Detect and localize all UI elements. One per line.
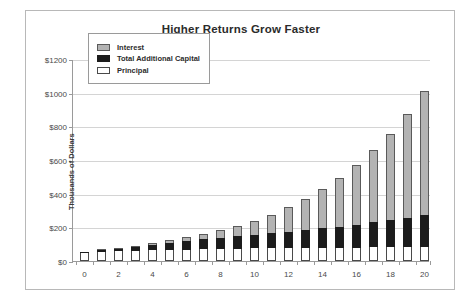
x-tick-label: 20 (420, 270, 429, 279)
x-tick-mark (263, 261, 264, 265)
bar (250, 221, 259, 261)
bar-segment-principal (403, 247, 412, 261)
bar-segment-interest (301, 199, 310, 231)
bar-segment-principal (250, 248, 259, 261)
bar-segment-total-additional-capital (216, 238, 225, 249)
bar-segment-principal (80, 253, 89, 261)
bar-segment-interest (250, 221, 259, 234)
y-tick-mark (69, 60, 73, 61)
bar-segment-total-additional-capital (250, 235, 259, 249)
bar (216, 230, 225, 261)
bar-segment-principal (131, 251, 140, 261)
gridline (73, 94, 430, 95)
legend-item-principal: Principal (97, 66, 202, 75)
legend-swatch (97, 67, 110, 74)
x-tick-label: 16 (352, 270, 361, 279)
legend-label: Interest (117, 43, 144, 52)
bar-segment-principal (114, 251, 123, 261)
bar (182, 237, 191, 261)
x-tick-label: 18 (386, 270, 395, 279)
bar-segment-total-additional-capital (199, 239, 208, 249)
bar-segment-principal (216, 249, 225, 261)
x-tick-label: 0 (82, 270, 86, 279)
y-tick-label: $800 (25, 123, 67, 132)
bar-segment-principal (182, 250, 191, 261)
legend-swatch (97, 44, 110, 51)
bar (352, 165, 361, 261)
bar-segment-total-additional-capital (352, 225, 361, 248)
y-tick-label: $600 (25, 157, 67, 166)
bar-segment-principal (97, 252, 106, 261)
x-tick-label: 2 (116, 270, 120, 279)
bar-segment-interest (403, 114, 412, 218)
x-tick-mark (365, 261, 366, 265)
bar-segment-total-additional-capital (233, 236, 242, 249)
bar (114, 248, 123, 261)
y-tick-label: $0 (25, 258, 67, 267)
x-tick-mark (246, 261, 247, 265)
bar-segment-principal (233, 249, 242, 261)
x-tick-label: 10 (250, 270, 259, 279)
y-tick-mark (69, 228, 73, 229)
bar-segment-principal (284, 248, 293, 261)
bar (369, 150, 378, 261)
y-tick-label: $400 (25, 190, 67, 199)
x-tick-mark (178, 261, 179, 265)
bar (199, 234, 208, 261)
y-tick-mark (69, 127, 73, 128)
bar-segment-total-additional-capital (301, 230, 310, 248)
bar-segment-total-additional-capital (369, 222, 378, 247)
bar-segment-principal (386, 247, 395, 261)
x-tick-label: 6 (184, 270, 188, 279)
chart-legend: InterestTotal Additional CapitalPrincipa… (88, 33, 210, 84)
x-tick-label: 14 (318, 270, 327, 279)
bar-segment-principal (420, 247, 429, 261)
bar (233, 226, 242, 261)
bar (80, 252, 89, 261)
bar (267, 215, 276, 261)
y-tick-mark (69, 94, 73, 95)
bar-segment-principal (318, 248, 327, 261)
gridline (73, 127, 430, 128)
legend-label: Principal (117, 66, 149, 75)
bar-segment-interest (369, 150, 378, 222)
bar-segment-interest (318, 189, 327, 229)
legend-item-interest: Interest (97, 43, 202, 52)
bar (165, 240, 174, 261)
x-tick-mark (430, 261, 431, 265)
bar-segment-principal (335, 248, 344, 261)
bar-segment-principal (165, 250, 174, 261)
bar-segment-total-additional-capital (403, 218, 412, 247)
x-tick-mark (161, 261, 162, 265)
x-tick-mark (348, 261, 349, 265)
bar-segment-total-additional-capital (420, 215, 429, 247)
bar (131, 246, 140, 261)
bar-segment-total-additional-capital (318, 228, 327, 248)
bar-segment-interest (420, 91, 429, 216)
bar-segment-total-additional-capital (182, 241, 191, 249)
bar-segment-interest (216, 230, 225, 237)
x-tick-mark (110, 261, 111, 265)
bar (97, 249, 106, 261)
x-tick-mark (331, 261, 332, 265)
x-tick-mark (195, 261, 196, 265)
y-axis-label: Thousands of Dollars (67, 133, 76, 210)
x-tick-label: 8 (218, 270, 222, 279)
chart-figure: Higher Returns Grow Faster $0$200$400$60… (25, 10, 455, 290)
x-tick-mark (212, 261, 213, 265)
x-tick-mark (76, 261, 77, 265)
bar-segment-total-additional-capital (165, 243, 174, 250)
bar-segment-interest (352, 165, 361, 225)
bar (284, 207, 293, 261)
bar-segment-interest (335, 178, 344, 227)
x-tick-mark (416, 261, 417, 265)
bar-segment-interest (284, 207, 293, 231)
x-tick-label: 4 (150, 270, 154, 279)
y-tick-label: $200 (25, 224, 67, 233)
x-tick-label: 12 (284, 270, 293, 279)
x-tick-mark (144, 261, 145, 265)
legend-label: Total Additional Capital (117, 54, 200, 63)
bar-segment-total-additional-capital (284, 232, 293, 248)
bar-segment-total-additional-capital (267, 233, 276, 248)
bar-segment-principal (352, 248, 361, 261)
